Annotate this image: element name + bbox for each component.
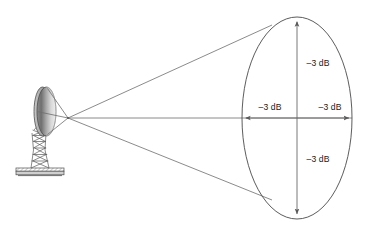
- label-top-minus-3db: –3 dB: [307, 58, 330, 68]
- focal-point-marker: [67, 117, 69, 119]
- tower-left-rail: [31, 133, 34, 168]
- beam-upper-edge-line: [68, 25, 272, 118]
- beam-cone-lines: [68, 25, 352, 200]
- tower-right-rail: [45, 133, 49, 168]
- diagram-canvas: –3 dB –3 dB –3 dB –3 dB: [0, 0, 366, 225]
- label-left-minus-3db: –3 dB: [259, 102, 282, 112]
- parabolic-dish-antenna: [16, 87, 69, 176]
- label-bottom-minus-3db: –3 dB: [307, 154, 330, 164]
- antenna-beamwidth-diagram: –3 dB –3 dB –3 dB –3 dB: [0, 0, 366, 225]
- base-plate: [16, 168, 64, 176]
- label-right-minus-3db: –3 dB: [319, 102, 342, 112]
- dimension-arrows: [246, 22, 349, 214]
- base-plate-body: [16, 171, 64, 175]
- beam-lower-edge-line: [68, 118, 272, 200]
- base-plate-top: [16, 168, 64, 171]
